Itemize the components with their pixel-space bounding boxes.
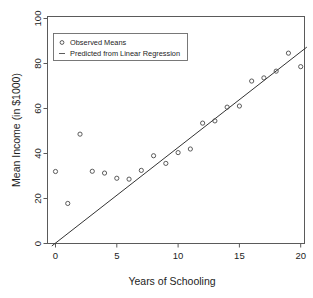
y-axis-title: Mean Income (in $1000) bbox=[10, 73, 22, 187]
chart-canvas: 100 80 60 40 20 0 Mean Income (in $1000)… bbox=[0, 0, 313, 298]
chart-legend: Observed Means Predicted from Linear Reg… bbox=[54, 34, 188, 61]
y-tick-label: 40 bbox=[32, 148, 43, 159]
y-tick-label: 20 bbox=[32, 193, 43, 204]
legend-label-observed: Observed Means bbox=[70, 38, 127, 47]
x-tick-label: 5 bbox=[114, 250, 119, 261]
x-tick-label: 10 bbox=[173, 250, 184, 261]
y-tick-label: 80 bbox=[32, 58, 43, 69]
legend-label-predicted: Predicted from Linear Regression bbox=[70, 49, 180, 58]
scatter-chart-figure: 100 80 60 40 20 0 Mean Income (in $1000)… bbox=[0, 0, 313, 298]
x-tick-label: 20 bbox=[295, 250, 306, 261]
x-axis-title: Years of Schooling bbox=[128, 275, 215, 287]
x-tick-label: 0 bbox=[53, 250, 58, 261]
x-tick-label: 15 bbox=[234, 250, 245, 261]
y-tick-label: 0 bbox=[32, 241, 43, 246]
y-tick-label: 100 bbox=[32, 11, 43, 27]
y-tick-label: 60 bbox=[32, 103, 43, 114]
